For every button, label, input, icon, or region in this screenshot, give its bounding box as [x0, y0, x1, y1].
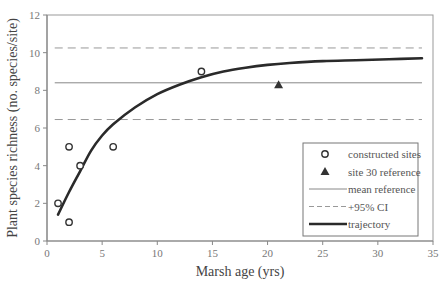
x-tick-label: 20	[262, 247, 274, 259]
y-tick-label: 2	[35, 197, 41, 209]
legend-label: constructed sites	[348, 148, 421, 160]
legend-label: site 30 reference	[348, 166, 421, 178]
data-points	[55, 68, 283, 225]
constructed-site-marker	[77, 162, 83, 168]
legend-label: trajectory	[348, 218, 391, 230]
legend-label: +95% CI	[348, 201, 388, 213]
legend-label: mean reference	[348, 183, 416, 195]
y-tick-label: 6	[35, 122, 41, 134]
y-tick-label: 0	[35, 235, 41, 247]
y-tick-label: 12	[29, 9, 40, 21]
x-tick-label: 5	[99, 247, 105, 259]
x-tick-label: 0	[44, 247, 50, 259]
y-tick-label: 4	[35, 160, 41, 172]
y-axis-title: Plant species richness (no. species/site…	[5, 18, 21, 238]
x-tick-label: 10	[152, 247, 164, 259]
x-tick-label: 35	[428, 247, 440, 259]
constructed-site-marker	[198, 68, 204, 74]
constructed-site-marker	[66, 144, 72, 150]
legend: constructed sitessite 30 referencemean r…	[303, 143, 421, 236]
constructed-site-marker	[66, 219, 72, 225]
x-tick-label: 30	[372, 247, 384, 259]
constructed-site-marker	[110, 144, 116, 150]
legend-circle-icon	[322, 151, 328, 157]
x-tick-label: 15	[207, 247, 219, 259]
x-axis-title: Marsh age (yrs)	[196, 264, 285, 280]
y-tick-label: 10	[29, 47, 41, 59]
site-30-reference-marker	[274, 80, 283, 88]
chart-canvas: 02468101205101520253035 constructed site…	[0, 0, 442, 293]
y-tick-label: 8	[35, 84, 41, 96]
x-tick-label: 25	[317, 247, 329, 259]
constructed-site-marker	[55, 200, 61, 206]
